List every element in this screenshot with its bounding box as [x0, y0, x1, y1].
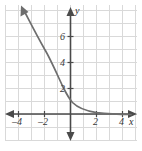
y-tick-label-2: 2 — [60, 84, 65, 94]
y-tick-label-6: 6 — [60, 32, 65, 42]
exponential-decay-curve — [21, 6, 132, 115]
y-axis-name: y — [75, 6, 79, 16]
y-axis-top-arrowhead — [67, 7, 75, 16]
graph-figure: –4 –2 2 4 2 4 6 x y — [0, 0, 142, 151]
x-tick-label-minus4: –4 — [12, 117, 22, 127]
coordinate-plane-svg — [0, 0, 142, 151]
y-axis-bottom-arrowhead — [67, 132, 75, 141]
x-tick-label-minus2: –2 — [38, 117, 48, 127]
curve-arrowhead — [21, 6, 29, 17]
y-axis — [67, 7, 75, 141]
x-tick-label-4: 4 — [119, 117, 124, 127]
y-tick-label-4: 4 — [60, 58, 65, 68]
x-tick-label-2: 2 — [93, 117, 98, 127]
x-axis-name: x — [129, 117, 133, 127]
